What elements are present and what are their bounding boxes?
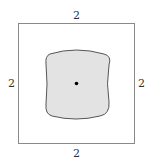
center-point	[75, 82, 79, 86]
bottom-side-label: 2	[73, 148, 80, 160]
left-side-label: 2	[8, 78, 15, 90]
diagram-canvas	[0, 0, 151, 164]
top-side-label: 2	[73, 10, 80, 22]
right-side-label: 2	[138, 78, 145, 90]
